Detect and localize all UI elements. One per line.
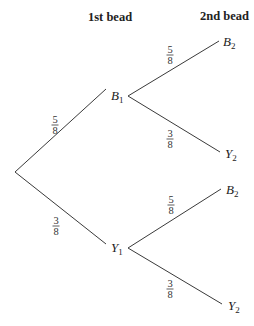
header-first-bead: 1st bead <box>88 10 132 24</box>
node-y2-bottom: Y2 <box>228 298 240 315</box>
node-b2-top: B2 <box>223 34 235 51</box>
fraction-numerator: 3 <box>53 215 58 226</box>
edge-b1-to-y2 <box>128 96 220 152</box>
header-second-bead: 2nd bead <box>200 9 249 23</box>
fraction-denominator: 8 <box>167 139 172 150</box>
fraction-numerator: 3 <box>167 128 172 139</box>
fraction-root-b1: 5 8 <box>52 114 59 136</box>
edge-b1-to-b2 <box>128 41 219 96</box>
fraction-denominator: 8 <box>168 205 173 216</box>
fraction-denominator: 8 <box>52 125 57 136</box>
probability-tree-diagram: 1st bead 2nd bead B1 Y1 B2 Y2 B2 Y2 5 8 … <box>0 0 254 326</box>
fraction-root-y1: 3 8 <box>53 215 60 237</box>
edge-root-to-b1 <box>15 89 106 172</box>
edge-root-to-y1 <box>15 172 106 244</box>
edge-y1-to-y2 <box>128 248 222 304</box>
fraction-denominator: 8 <box>53 226 58 237</box>
node-b1: B1 <box>111 88 123 105</box>
node-b2-bottom: B2 <box>226 182 238 199</box>
fraction-numerator: 5 <box>167 44 172 55</box>
fraction-y1-y2: 3 8 <box>167 278 174 300</box>
fraction-numerator: 5 <box>52 114 57 125</box>
fraction-numerator: 3 <box>167 278 172 289</box>
fraction-denominator: 8 <box>167 55 172 66</box>
fraction-denominator: 8 <box>167 289 172 300</box>
node-y2-top: Y2 <box>225 146 237 163</box>
fraction-b1-b2: 5 8 <box>167 44 174 66</box>
edge-y1-to-b2 <box>128 189 221 248</box>
fraction-y1-b2: 5 8 <box>168 194 175 216</box>
fraction-numerator: 5 <box>168 194 173 205</box>
node-y1: Y1 <box>111 240 123 257</box>
fraction-b1-y2: 3 8 <box>167 128 174 150</box>
